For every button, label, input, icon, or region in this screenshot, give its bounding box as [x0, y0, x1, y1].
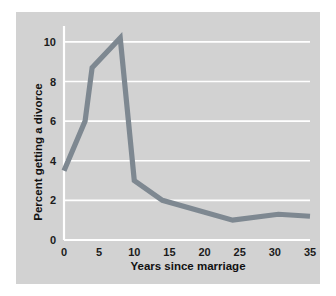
y-tick-label-2: 2	[50, 194, 56, 206]
y-tick-label-4: 4	[50, 155, 57, 167]
x-tick-label-25: 25	[234, 246, 246, 258]
gridline-group	[64, 42, 310, 200]
x-axis-title: Years since marriage	[130, 260, 245, 272]
y-tick-label-8: 8	[50, 76, 56, 88]
figure-panel: 0246810 05101520253035 Percent getting a…	[16, 12, 320, 284]
x-tick-label-10: 10	[128, 246, 140, 258]
data-series-group	[64, 38, 310, 220]
y-tick-label-10: 10	[44, 36, 56, 48]
x-tick-label-20: 20	[198, 246, 210, 258]
x-tick-label-0: 0	[61, 246, 67, 258]
y-tick-label-6: 6	[50, 115, 56, 127]
x-tick-label-35: 35	[304, 246, 316, 258]
x-tick-label-30: 30	[269, 246, 281, 258]
x-tick-label-group: 05101520253035	[61, 246, 316, 258]
y-tick-label-0: 0	[50, 234, 56, 246]
chart-plot-area: 0246810 05101520253035 Percent getting a…	[16, 12, 320, 284]
y-axis-title: Percent getting a divorce	[32, 83, 44, 220]
data-line-series-0	[64, 38, 310, 220]
y-tick-label-group: 0246810	[44, 36, 57, 246]
line-chart: 0246810 05101520253035 Percent getting a…	[16, 12, 320, 284]
x-tick-label-5: 5	[96, 246, 102, 258]
x-tick-label-15: 15	[163, 246, 175, 258]
